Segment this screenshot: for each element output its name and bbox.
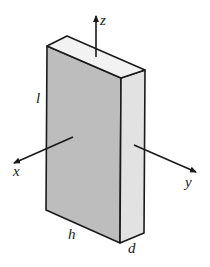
x-axis-label: x xyxy=(12,163,20,179)
z-axis-label: z xyxy=(99,12,106,28)
y-axis-label: y xyxy=(183,174,192,190)
side-face xyxy=(120,70,145,243)
length-label: l xyxy=(36,90,40,106)
height-label: h xyxy=(68,226,76,242)
slab-diagram: z x y l h d xyxy=(0,0,210,267)
depth-label: d xyxy=(128,240,136,256)
